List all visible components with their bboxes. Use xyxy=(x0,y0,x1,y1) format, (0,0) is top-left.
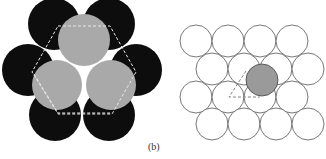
highlighted-sphere xyxy=(246,64,278,96)
close-packing-diagram xyxy=(0,0,326,159)
outline-circle xyxy=(196,53,228,85)
outline-circle xyxy=(276,81,308,113)
outline-circle xyxy=(228,108,260,140)
right-panel xyxy=(180,25,324,140)
outline-circle xyxy=(292,108,324,140)
outline-circle xyxy=(180,25,212,57)
outline-circle xyxy=(292,53,324,85)
outline-circle xyxy=(180,81,212,113)
outline-circle xyxy=(212,25,244,57)
gap-marker xyxy=(52,52,60,58)
left-panel xyxy=(2,0,162,141)
figure-caption: (b) xyxy=(148,141,160,152)
outline-circle xyxy=(244,25,276,57)
outline-circle xyxy=(196,108,228,140)
gray-sphere xyxy=(58,14,110,66)
outline-circle xyxy=(276,25,308,57)
gray-sphere xyxy=(86,60,136,110)
outline-circle xyxy=(260,108,292,140)
